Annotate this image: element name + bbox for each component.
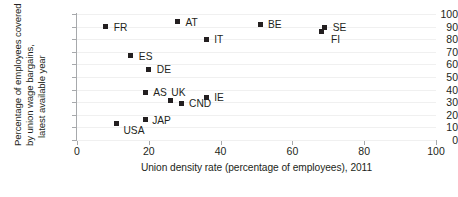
data-point-label: IE	[214, 93, 224, 103]
data-point-label: ES	[139, 52, 153, 62]
y-tick-mark	[72, 39, 77, 40]
gridline-horizontal	[77, 77, 436, 78]
y-tick-label: 90	[394, 22, 458, 33]
gridline-horizontal	[77, 115, 436, 116]
y-axis-title-line-3: latest available year	[36, 55, 47, 138]
x-tick-label: 80	[344, 146, 384, 157]
y-tick-label: 10	[394, 122, 458, 133]
y-tick-mark	[72, 115, 77, 116]
data-point-label: CND	[189, 99, 211, 109]
gridline-horizontal	[77, 39, 436, 40]
data-point-marker	[103, 24, 108, 29]
data-point-marker	[179, 101, 184, 106]
data-point-label: UK	[171, 88, 185, 98]
data-point-marker	[146, 67, 151, 72]
data-point-marker	[128, 53, 133, 58]
gridline-horizontal	[77, 14, 436, 15]
data-point-label: SE	[333, 23, 347, 33]
data-point-label: AT	[186, 18, 198, 28]
gridline-horizontal	[77, 90, 436, 91]
y-tick-label: 80	[394, 34, 458, 45]
data-point-marker	[258, 22, 263, 27]
data-point-marker	[319, 29, 324, 34]
scatter-chart: Percentage of employees covered by union…	[0, 0, 458, 197]
y-tick-mark	[72, 102, 77, 103]
data-point-marker	[143, 117, 148, 122]
y-tick-label: 60	[394, 59, 458, 70]
y-tick-mark	[72, 27, 77, 28]
data-point-label: IT	[214, 35, 223, 45]
gridline-horizontal	[77, 102, 436, 103]
data-point-label: BE	[268, 20, 282, 30]
x-tick-label: 20	[129, 146, 169, 157]
data-point-label: FI	[331, 35, 340, 45]
gridline-horizontal	[77, 27, 436, 28]
x-axis-title: Union density rate (percentage of employ…	[77, 162, 436, 173]
y-tick-label: 100	[394, 9, 458, 20]
plot-area: FRATITBESEFIESDEASIEUKCNDUSAJAP	[77, 14, 436, 140]
y-tick-label: 50	[394, 72, 458, 83]
data-point-label: DE	[157, 65, 171, 75]
data-point-marker	[175, 19, 180, 24]
y-tick-mark	[72, 14, 77, 15]
y-tick-label: 40	[394, 85, 458, 96]
x-tick-label: 60	[272, 146, 312, 157]
y-tick-mark	[72, 90, 77, 91]
data-point-label: FR	[114, 23, 128, 33]
y-tick-label: 20	[394, 110, 458, 121]
y-axis-title-line-2: by union wage bargains,	[24, 44, 35, 146]
y-axis-title-line-1: Percentage of employees covered	[12, 4, 23, 147]
x-tick-label: 100	[416, 146, 456, 157]
data-point-marker	[204, 37, 209, 42]
x-tick-label: 40	[201, 146, 241, 157]
y-tick-label: 0	[394, 135, 458, 146]
data-point-label: USA	[123, 126, 144, 136]
data-point-marker	[114, 121, 119, 126]
y-tick-label: 30	[394, 97, 458, 108]
data-point-marker	[143, 90, 148, 95]
data-point-label: JAP	[152, 116, 171, 126]
data-point-marker	[168, 98, 173, 103]
gridline-horizontal	[77, 140, 436, 141]
y-tick-mark	[72, 77, 77, 78]
y-tick-mark	[72, 64, 77, 65]
x-tick-label: 0	[57, 146, 97, 157]
y-tick-mark	[72, 127, 77, 128]
data-point-label: AS	[153, 88, 167, 98]
y-tick-label: 70	[394, 47, 458, 58]
y-tick-mark	[72, 52, 77, 53]
gridline-horizontal	[77, 64, 436, 65]
